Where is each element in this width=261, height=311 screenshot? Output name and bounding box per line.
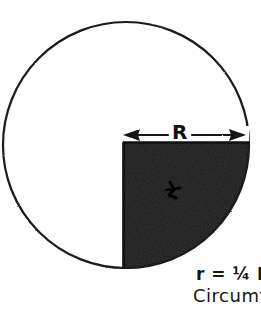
geometry-figure [0,0,261,311]
figure-page: R r = ¼ R Circumf [0,0,261,311]
